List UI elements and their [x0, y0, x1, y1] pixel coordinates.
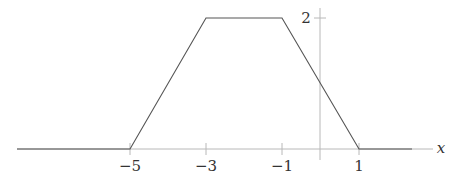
y-tick-label-2: 2 — [301, 9, 311, 27]
x-tick-label-1: 1 — [354, 157, 364, 175]
chart: −5 −3 −1 1 2 x — [0, 0, 461, 180]
x-tick-label-neg5: −5 — [119, 157, 141, 175]
x-tick-label-neg3: −3 — [195, 157, 217, 175]
function-curve — [17, 18, 412, 149]
x-axis-label: x — [437, 139, 446, 157]
x-tick-label-neg1: −1 — [271, 157, 293, 175]
